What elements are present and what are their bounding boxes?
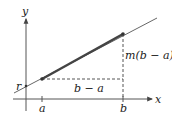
tick-b-label: b	[120, 102, 127, 115]
point-b	[121, 32, 125, 36]
intercept-label: r	[16, 80, 22, 93]
run-label: b − a	[74, 82, 104, 95]
point-a	[40, 77, 44, 81]
rise-label: m(b − a)	[125, 49, 172, 62]
x-axis-label: x	[155, 93, 162, 106]
tick-a-label: a	[39, 102, 46, 115]
point-intercept	[25, 85, 28, 88]
slope-diagram: y x r b − a m(b − a) a b	[0, 0, 172, 119]
segment-a-b	[42, 34, 123, 79]
y-axis-label: y	[21, 5, 29, 18]
